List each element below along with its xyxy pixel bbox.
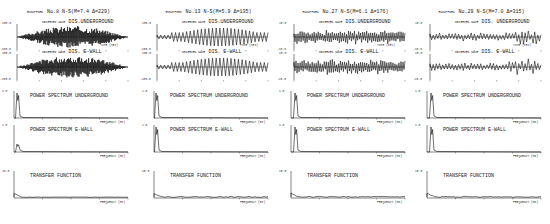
y-tick-bottom: -100.0 xyxy=(0,48,11,51)
displacement-ewall-panel: OBSERVED WAVEDIS. E-WALL10.0-10.0 xyxy=(413,52,550,84)
y-tick-top: 100.0 xyxy=(142,22,151,25)
waveform-plot xyxy=(140,52,277,82)
y-tick-bottom: -100.0 xyxy=(140,48,151,51)
y-tick-top: 10.0 xyxy=(142,170,149,173)
displacement-ewall-panel: OBSERVED WAVEDIS. E-WALL10.0-10.0 xyxy=(277,52,414,84)
x-axis-label: FREQUENCY (HZ) xyxy=(100,201,125,204)
record-column: RUNUPFORDNo.27 N-S(M=6.1 Δ=176)OBSERVED … xyxy=(277,0,414,224)
record-title: RUNUPFORDNo.13 N-S(M=5.9 Δ=135) xyxy=(140,9,277,15)
record-prefix: RUNUPFORD xyxy=(27,11,43,14)
power-spectrum-ewall-panel: POWER SPECTRUM E-WALL1.0FREQUENCY (HZ) xyxy=(277,124,414,158)
panel-label: OBSERVED WAVEDIS. E-WALL xyxy=(319,49,378,55)
record-header: No.29 N-S(M=7.0 Δ=315) xyxy=(459,9,525,15)
displacement-ewall-panel: OBSERVED WAVEDIS. E-WALL100.0-100.0 xyxy=(0,52,137,84)
panel-label: POWER SPECTRUM UNDERGROUND xyxy=(170,93,248,99)
power-spectrum-ewall-panel: POWER SPECTRUM E-WALL1.0FREQUENCY (HZ) xyxy=(0,124,137,158)
transfer-function-panel: TRANSFER FUNCTION10.0FREQUENCY (HZ) xyxy=(140,170,277,204)
y-tick-bottom: -100.0 xyxy=(0,78,11,81)
waveform-plot xyxy=(413,22,550,52)
x-axis-label: TIME (SEC) xyxy=(240,44,258,47)
record-column: RUNUPFORDNo.13 N-S(M=5.9 Δ=135)OBSERVED … xyxy=(140,0,277,224)
y-tick-bottom: -10.0 xyxy=(277,48,286,51)
y-tick-top: 100.0 xyxy=(2,52,11,55)
panel-label: OBSERVED WAVEDIS.UNDERGROUND xyxy=(319,19,390,25)
power-spectrum-underground-panel: POWER SPECTRUM UNDERGROUND1.0FREQUENCY (… xyxy=(277,90,414,124)
record-prefix: RUNUPFORD xyxy=(302,11,318,14)
y-tick-top: 10.0 xyxy=(279,52,286,55)
wave-label: DIS. E-WALL xyxy=(481,49,514,55)
y-tick-top: 10.0 xyxy=(279,22,286,25)
panel-label: POWER SPECTRUM UNDERGROUND xyxy=(30,93,108,99)
y-tick-top: 10.0 xyxy=(415,22,422,25)
y-tick-bottom: -100.0 xyxy=(140,78,151,81)
x-axis-label: TIME (SEC) xyxy=(100,44,118,47)
y-tick-top: 10.0 xyxy=(415,52,422,55)
x-axis-label: FREQUENCY (HZ) xyxy=(513,201,538,204)
wave-tag: OBSERVED WAVE xyxy=(182,21,205,24)
y-tick-top: 1.0 xyxy=(2,124,7,127)
panel-label: OBSERVED WAVEDIS.UNDERGROUND xyxy=(42,19,113,25)
wave-label: DIS. E-WALL xyxy=(68,49,101,55)
y-tick-top: 1.0 xyxy=(142,90,147,93)
record-header: No.13 N-S(M=5.9 Δ=135) xyxy=(186,9,252,15)
wave-tag: OBSERVED WAVE xyxy=(182,51,205,54)
waveform-plot xyxy=(277,22,414,52)
panel-label: POWER SPECTRUM UNDERGROUND xyxy=(307,93,385,99)
y-tick-top: 1.0 xyxy=(415,124,420,127)
panel-label: TRANSFER FUNCTION xyxy=(30,173,81,179)
record-column: RUNUPFORDNo.29 N-S(M=7.0 Δ=315)OBSERVED … xyxy=(413,0,550,224)
x-axis-label: FREQUENCY (HZ) xyxy=(240,201,265,204)
y-tick-bottom: -10.0 xyxy=(277,78,286,81)
y-tick-top: 1.0 xyxy=(279,124,284,127)
record-title: RUNUPFORDNo.27 N-S(M=6.1 Δ=176) xyxy=(277,9,414,15)
wave-label: DIS.UNDERGROUND xyxy=(68,19,113,25)
panel-label: POWER SPECTRUM E-WALL xyxy=(307,127,370,133)
waveform-plot xyxy=(0,52,137,82)
record-header: No.8 N-S(M=7.4 Δ=229) xyxy=(47,9,110,15)
panel-label: POWER SPECTRUM E-WALL xyxy=(443,127,506,133)
y-tick-top: 1.0 xyxy=(415,90,420,93)
record-title: RUNUPFORDNo.8 N-S(M=7.4 Δ=229) xyxy=(0,9,137,15)
power-spectrum-underground-panel: POWER SPECTRUM UNDERGROUND1.0FREQUENCY (… xyxy=(413,90,550,124)
x-axis-label: FREQUENCY (HZ) xyxy=(513,155,538,158)
x-axis-label: FREQUENCY (HZ) xyxy=(377,155,402,158)
power-spectrum-underground-panel: POWER SPECTRUM UNDERGROUND1.0FREQUENCY (… xyxy=(140,90,277,124)
wave-tag: OBSERVED WAVE xyxy=(455,51,478,54)
record-header: No.27 N-S(M=6.1 Δ=176) xyxy=(323,9,389,15)
panel-label: OBSERVED WAVEDIS. UNDERGROUND xyxy=(455,19,529,25)
wave-tag: OBSERVED WAVE xyxy=(455,21,478,24)
record-column: RUNUPFORDNo.8 N-S(M=7.4 Δ=229)OBSERVED W… xyxy=(0,0,137,224)
panel-label: TRANSFER FUNCTION xyxy=(307,173,358,179)
wave-tag: OBSERVED WAVE xyxy=(42,21,65,24)
panel-label: OBSERVED WAVEDIS. E-WALL xyxy=(182,49,241,55)
x-axis-label: FREQUENCY (HZ) xyxy=(240,155,265,158)
panel-label: OBSERVED WAVEDIS. E-WALL xyxy=(455,49,514,55)
y-tick-top: 100.0 xyxy=(2,22,11,25)
wave-tag: OBSERVED WAVE xyxy=(319,51,342,54)
panel-label: OBSERVED WAVEDIS. E-WALL xyxy=(42,49,101,55)
x-axis-label: TIME (SEC) xyxy=(377,44,395,47)
y-tick-top: 10.0 xyxy=(2,170,9,173)
y-tick-top: 10.0 xyxy=(415,170,422,173)
wave-tag: OBSERVED WAVE xyxy=(42,51,65,54)
y-tick-bottom: -10.0 xyxy=(413,48,422,51)
power-spectrum-ewall-panel: POWER SPECTRUM E-WALL1.0FREQUENCY (HZ) xyxy=(140,124,277,158)
waveform-plot xyxy=(0,22,137,52)
panel-label: POWER SPECTRUM E-WALL xyxy=(30,127,93,133)
wave-label: DIS. UNDERGROUND xyxy=(481,19,529,25)
wave-label: DIS. E-WALL xyxy=(345,49,378,55)
y-tick-top: 1.0 xyxy=(279,90,284,93)
panel-label: TRANSFER FUNCTION xyxy=(170,173,221,179)
record-prefix: RUNUPFORD xyxy=(438,11,454,14)
y-tick-top: 1.0 xyxy=(142,124,147,127)
transfer-function-panel: TRANSFER FUNCTION10.0FREQUENCY (HZ) xyxy=(277,170,414,204)
record-title: RUNUPFORDNo.29 N-S(M=7.0 Δ=315) xyxy=(413,9,550,15)
power-spectrum-underground-panel: POWER SPECTRUM UNDERGROUND1.0FREQUENCY (… xyxy=(0,90,137,124)
wave-label: DIS.UNDERGROUND xyxy=(345,19,390,25)
y-tick-top: 100.0 xyxy=(142,52,151,55)
x-axis-label: FREQUENCY (HZ) xyxy=(100,155,125,158)
y-tick-top: 1.0 xyxy=(2,90,7,93)
x-axis-label: TIME (SEC) xyxy=(513,44,531,47)
waveform-plot xyxy=(277,52,414,82)
y-tick-bottom: -10.0 xyxy=(413,78,422,81)
